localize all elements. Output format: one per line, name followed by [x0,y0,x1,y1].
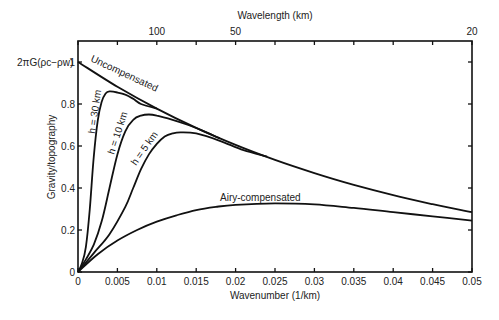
label-h10: h = 10 km [105,110,129,155]
x-tick-label: 0 [75,276,81,287]
curve-airy-compensated [78,203,472,272]
x-axis-title: Wavenumber (1/km) [230,290,320,301]
label-h30: h = 30 km [86,89,103,134]
x-tick-label: 0.005 [105,276,130,287]
label-uncompensated: Uncompensated [89,53,160,94]
x-tick-label: 0.05 [462,276,482,287]
top-tick-label: 100 [148,26,165,37]
x-tick-label: 0.015 [184,276,209,287]
y-top-label: 2πG(ρc−ρw) [17,57,73,68]
x-tick-label: 0.035 [341,276,366,287]
x-tick-label: 0.03 [305,276,325,287]
y-tick-label: 0.8 [61,99,75,110]
top-tick-label: 20 [466,26,478,37]
y-tick-label: 0.2 [61,225,75,236]
top-tick-label: 50 [230,26,242,37]
y-tick-label: 0.4 [61,183,75,194]
tick-labels: 00.0050.010.0150.020.0250.030.0350.040.0… [61,26,482,287]
x-tick-label: 0.01 [147,276,167,287]
x-tick-label: 0.045 [420,276,445,287]
y-tick-label: 0.6 [61,141,75,152]
chart: 00.0050.010.0150.020.0250.030.0350.040.0… [0,0,499,320]
x-tick-label: 0.02 [226,276,246,287]
y-axis-title: Gravity/topography [46,115,57,200]
top-axis-title: Wavelength (km) [237,10,312,21]
y-tick-label: 0 [69,267,75,278]
x-tick-label: 0.025 [262,276,287,287]
label-airy: Airy-compensated [220,192,301,203]
x-tick-label: 0.04 [383,276,403,287]
